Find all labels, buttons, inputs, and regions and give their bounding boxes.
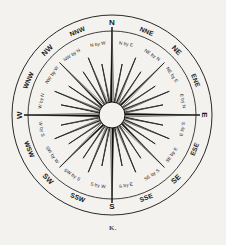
- compass-point-label: E by S: [179, 122, 187, 137]
- compass-point-label: N by W: [90, 40, 107, 48]
- compass-point-label: W: [15, 111, 24, 119]
- compass-point-label: W by S: [38, 121, 46, 137]
- compass-point-label: N: [109, 18, 115, 27]
- compass-point-label: SW by S: [63, 167, 81, 181]
- compass-point-label: NE by N: [143, 48, 161, 62]
- center-hub: [99, 102, 125, 128]
- compass-point-label: S: [109, 202, 115, 211]
- compass-point-label: E: [200, 112, 209, 118]
- compass-point-label: WSW: [23, 140, 36, 159]
- compass-point-label: NW by W: [44, 65, 60, 85]
- compass-point-label: SSW: [69, 191, 86, 204]
- compass-point-label: SW by W: [45, 145, 60, 165]
- compass-point-label: SE by E: [165, 146, 179, 163]
- compass-point-label: NNE: [139, 25, 155, 37]
- compass-point-label: NE: [170, 43, 184, 57]
- compass-point-label: E by N: [179, 93, 187, 108]
- compass-point-label: W by N: [37, 93, 45, 109]
- compass-point-label: S by W: [90, 181, 107, 189]
- compass-point-label: ESE: [189, 141, 201, 157]
- compass-point-label: SSE: [139, 191, 155, 203]
- compass-point-label: SW: [41, 171, 56, 186]
- compass-rose-figure: NN by ENNENE by NNENE by EENEE by NEE by…: [0, 0, 226, 245]
- compass-rose-diagram: NN by ENNENE by NNENE by EENEE by NEE by…: [0, 0, 226, 245]
- compass-point-label: N by E: [119, 40, 134, 48]
- compass-point-label: SE by S: [143, 168, 160, 182]
- compass-point-label: S by E: [119, 182, 134, 190]
- compass-point-label: NE by E: [165, 66, 179, 83]
- compass-point-label: ENE: [190, 73, 202, 89]
- compass-point-label: NW by N: [63, 48, 82, 63]
- figure-caption: K.: [0, 224, 226, 232]
